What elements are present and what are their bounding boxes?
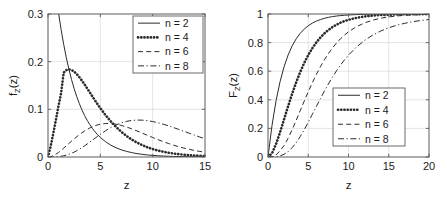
ytick-label: 0.4 [248, 94, 263, 106]
xtick-label: 10 [342, 160, 354, 172]
cdf-plot-svg: 0510152000.20.40.60.81zFZ(z)n = 2n = 4n … [223, 0, 447, 204]
xtick-label: 5 [305, 160, 311, 172]
ytick-label: 0.8 [248, 37, 263, 49]
xtick-label: 5 [97, 160, 103, 172]
y-axis-title-text: FZ(z) [227, 73, 242, 98]
xtick-label: 0 [265, 160, 271, 172]
xtick-label: 10 [147, 160, 159, 172]
xtick-label: 15 [383, 160, 395, 172]
legend-label-1: n = 2 [165, 17, 189, 29]
y-axis-title-main: F [227, 91, 239, 98]
legend-label-3: n = 6 [165, 45, 189, 57]
x-axis-title: z [346, 179, 352, 191]
ytick-label: 0.3 [28, 8, 43, 20]
y-axis-title-tail: (z) [7, 75, 19, 89]
legend-label-4: n = 8 [365, 133, 389, 145]
ytick-label: 0.1 [28, 103, 43, 115]
legend-label-3: n = 6 [365, 118, 389, 130]
legend-label-2: n = 4 [165, 31, 189, 43]
ytick-label: 1 [257, 8, 263, 20]
ytick-label: 0.2 [248, 122, 263, 134]
figure-container: 05101500.10.20.3zfZ(z)n = 2n = 4n = 6n =… [0, 0, 447, 204]
y-axis-title-text: fZ(z) [7, 75, 22, 96]
ytick-label: 0.2 [28, 56, 43, 68]
xtick-label: 20 [423, 160, 435, 172]
legend-label-2: n = 4 [365, 104, 389, 116]
xtick-label: 0 [45, 160, 51, 172]
y-axis-title: FZ(z) [227, 73, 242, 98]
y-axis-title: fZ(z) [7, 75, 22, 96]
ytick-label: 0 [37, 151, 43, 163]
x-axis-title: z [124, 179, 130, 191]
ytick-label: 0 [257, 151, 263, 163]
y-axis-title-tail: (z) [227, 73, 239, 87]
legend[interactable]: n = 2n = 4n = 6n = 8 [333, 88, 405, 146]
legend[interactable]: n = 2n = 4n = 6n = 8 [133, 16, 203, 73]
xtick-label: 15 [199, 160, 211, 172]
ytick-label: 0.6 [248, 65, 263, 77]
pdf-plot-svg: 05101500.10.20.3zfZ(z)n = 2n = 4n = 6n =… [0, 0, 223, 204]
pdf-panel: 05101500.10.20.3zfZ(z)n = 2n = 4n = 6n =… [0, 0, 223, 204]
legend-label-4: n = 8 [165, 60, 189, 72]
legend-label-1: n = 2 [365, 89, 389, 101]
cdf-panel: 0510152000.20.40.60.81zFZ(z)n = 2n = 4n … [223, 0, 446, 204]
